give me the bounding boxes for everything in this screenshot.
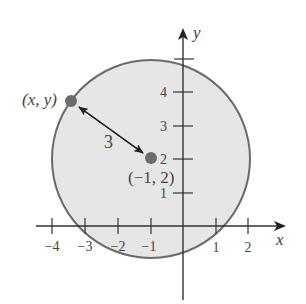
- x-tick-label: 2: [245, 240, 252, 255]
- y-tick-label: 1: [160, 186, 167, 201]
- radius-label: 3: [104, 132, 113, 152]
- x-tick-label: −3: [78, 239, 93, 254]
- center-point: [145, 152, 157, 164]
- y-tick-label: 3: [160, 119, 167, 134]
- x-tick-label: −2: [111, 239, 126, 254]
- point-label: (x, y): [22, 90, 57, 109]
- y-axis-label: y: [191, 23, 201, 42]
- y-tick-label: 4: [160, 85, 167, 100]
- x-tick-label: −1: [142, 239, 157, 254]
- x-tick-label: 1: [213, 240, 220, 255]
- circle-point: [65, 95, 77, 107]
- center-label: (−1, 2): [128, 168, 174, 187]
- x-tick-label: −4: [45, 239, 60, 254]
- diagram-canvas: −4 −3 −2 −1 1 2 1 2 3 4 x y 3 (−1, 2) (x…: [0, 0, 306, 304]
- circle-diagram: −4 −3 −2 −1 1 2 1 2 3 4 x y 3 (−1, 2) (x…: [0, 0, 306, 304]
- y-tick-label: 2: [160, 152, 167, 167]
- x-axis-label: x: [275, 230, 284, 249]
